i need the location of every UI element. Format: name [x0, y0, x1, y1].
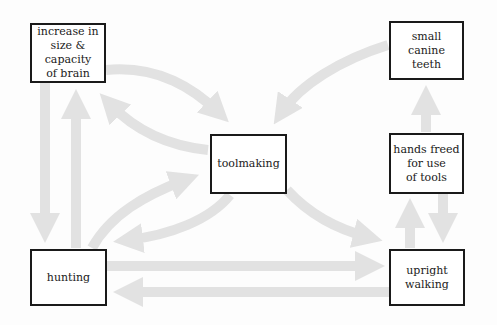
node-hunting: hunting	[30, 249, 107, 306]
arrow-canine-to-toolmaking	[282, 45, 388, 112]
node-upright-walking: upright walking	[389, 249, 465, 306]
node-small-canine-teeth: small canine teeth	[389, 21, 464, 80]
diagram-canvas: increase in size & capacity of brain sma…	[0, 0, 497, 325]
node-brain-increase: increase in size & capacity of brain	[30, 23, 106, 83]
node-hands-freed: hands freed for use of tools	[389, 133, 464, 194]
arrow-toolmaking-to-brain	[110, 104, 208, 150]
node-toolmaking: toolmaking	[210, 134, 287, 194]
arrow-toolmaking-to-upright	[287, 190, 368, 237]
arrow-brain-to-toolmaking	[106, 69, 218, 112]
